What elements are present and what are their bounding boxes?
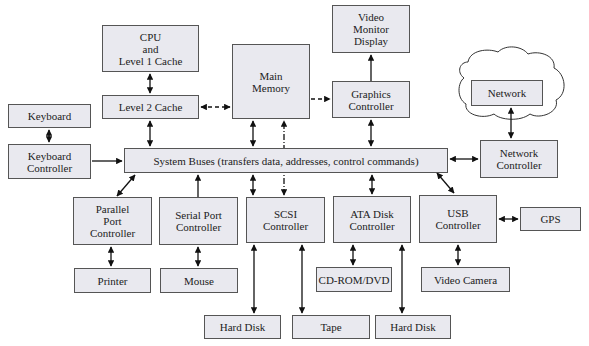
video-monitor-label: Video Monitor Display — [353, 11, 389, 47]
cpu-label: CPU and Level 1 Cache — [119, 31, 183, 67]
printer-label: Printer — [98, 275, 128, 287]
cdrom-dvd-box: CD-ROM/DVD — [316, 267, 392, 292]
scsi-controller-label: SCSI Controller — [263, 208, 308, 232]
parallel-port-controller-box: Parallel Port Controller — [73, 197, 152, 245]
main-memory-label: Main Memory — [252, 70, 290, 94]
system-bus-label: System Buses (transfers data, addresses,… — [153, 155, 418, 167]
network-box: Network — [471, 80, 543, 106]
cpu-box: CPU and Level 1 Cache — [102, 25, 199, 72]
usb-controller-label: USB Controller — [435, 207, 480, 231]
diagram-canvas: CPU and Level 1 Cache Level 2 Cache Main… — [0, 0, 589, 346]
gps-box: GPS — [520, 207, 581, 231]
hard-disk-ata-label: Hard Disk — [390, 321, 436, 333]
tape-box: Tape — [292, 315, 370, 339]
network-label: Network — [488, 87, 527, 99]
cdrom-dvd-label: CD-ROM/DVD — [319, 274, 390, 286]
tape-label: Tape — [320, 321, 341, 333]
keyboard-label: Keyboard — [28, 110, 71, 122]
gps-label: GPS — [540, 213, 560, 225]
video-camera-label: Video Camera — [434, 274, 497, 286]
usb-controller-box: USB Controller — [419, 195, 497, 243]
mouse-box: Mouse — [160, 268, 238, 293]
graphics-controller-label: Graphics Controller — [348, 88, 393, 112]
printer-box: Printer — [74, 268, 151, 293]
scsi-controller-box: SCSI Controller — [246, 197, 325, 243]
hard-disk-scsi-box: Hard Disk — [204, 315, 281, 339]
serial-port-controller-box: Serial Port Controller — [159, 197, 238, 245]
system-bus-box: System Buses (transfers data, addresses,… — [124, 148, 448, 173]
ata-disk-controller-label: ATA Disk Controller — [349, 208, 394, 232]
main-memory-box: Main Memory — [232, 44, 310, 119]
network-controller-label: Network Controller — [496, 147, 541, 171]
network-controller-box: Network Controller — [480, 140, 558, 178]
graphics-controller-box: Graphics Controller — [332, 81, 410, 118]
keyboard-box: Keyboard — [8, 104, 91, 128]
keyboard-controller-box: Keyboard Controller — [8, 144, 91, 179]
video-camera-box: Video Camera — [421, 267, 510, 292]
level2-cache-label: Level 2 Cache — [119, 101, 183, 113]
keyboard-controller-label: Keyboard Controller — [27, 150, 72, 174]
ata-disk-controller-box: ATA Disk Controller — [333, 196, 411, 243]
edge-usb-bus — [437, 173, 454, 193]
hard-disk-ata-box: Hard Disk — [375, 315, 451, 339]
edge-parallel-bus — [117, 175, 135, 196]
parallel-port-label: Parallel Port Controller — [90, 203, 135, 239]
hard-disk-scsi-label: Hard Disk — [220, 321, 266, 333]
level2-cache-box: Level 2 Cache — [102, 95, 199, 119]
serial-port-label: Serial Port Controller — [175, 209, 222, 233]
video-monitor-box: Video Monitor Display — [332, 5, 410, 53]
mouse-label: Mouse — [184, 275, 214, 287]
